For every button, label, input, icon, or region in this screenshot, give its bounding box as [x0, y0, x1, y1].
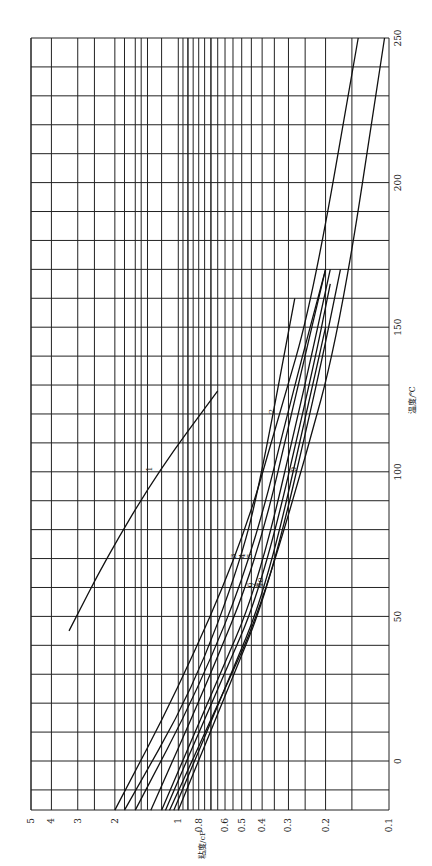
x-tick-label: 0	[393, 758, 403, 764]
y-axis-title: 粘度/cP	[197, 830, 207, 859]
curve-label: 3	[229, 553, 238, 558]
x-tick-label: 50	[393, 610, 403, 622]
curve-label: 10	[256, 577, 265, 587]
y-tick-label: 2	[110, 818, 120, 824]
curve-4	[135, 269, 325, 810]
y-tick-label: 5	[26, 818, 36, 824]
x-tick-label: 200	[393, 174, 403, 191]
y-tick-label: 0.3	[283, 818, 293, 833]
y-tick-label: 0.8	[194, 818, 204, 833]
y-tick-label: 0.2	[321, 818, 331, 832]
viscosity-temperature-chart: 0.10.20.30.40.50.60.81234505010015020025…	[0, 0, 432, 866]
y-tick-label: 0.1	[384, 818, 394, 832]
y-tick-label: 0.5	[237, 818, 247, 833]
y-tick-label: 1	[173, 818, 183, 824]
grid	[31, 38, 389, 810]
curve-label: 1	[145, 467, 154, 472]
x-axis-title: 温度/℃	[407, 386, 417, 414]
x-tick-label: 250	[393, 29, 403, 46]
y-tick-label: 0.4	[257, 818, 267, 833]
curve-1	[69, 391, 218, 631]
y-tick-label: 3	[73, 818, 83, 824]
x-tick-label: 100	[393, 463, 403, 480]
curve-label: 5	[245, 553, 254, 558]
x-tick-label: 150	[393, 318, 403, 335]
y-tick-label: 0.6	[220, 818, 230, 833]
y-tick-label: 4	[46, 818, 56, 824]
